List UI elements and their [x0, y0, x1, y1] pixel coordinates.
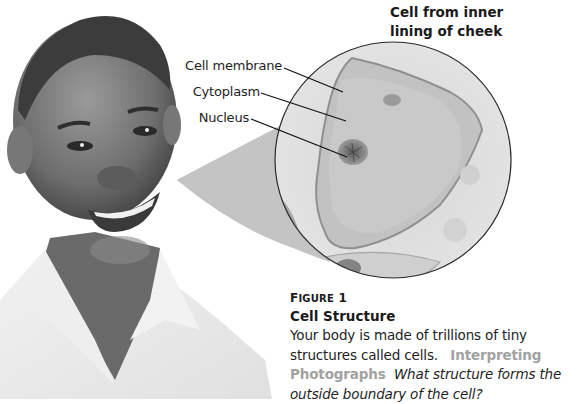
label-cell-membrane: Cell membrane	[185, 58, 282, 73]
label-cytoplasm: Cytoplasm	[193, 84, 260, 99]
figure-body: Your body is made of trillions of tiny s…	[290, 326, 585, 404]
magnified-view-title: Cell from inner lining of cheek	[390, 3, 530, 41]
figure-number-value: 1	[338, 291, 347, 305]
figure-caption: FIGURE 1 Cell Structure Your body is mad…	[290, 290, 585, 404]
label-nucleus: Nucleus	[199, 110, 249, 125]
figure-number: FIGURE 1	[290, 290, 585, 307]
title-line-1: Cell from inner	[390, 3, 530, 22]
figure-label-rest: IGURE	[298, 293, 334, 304]
title-line-2: lining of cheek	[390, 22, 530, 41]
figure-title: Cell Structure	[290, 307, 585, 326]
